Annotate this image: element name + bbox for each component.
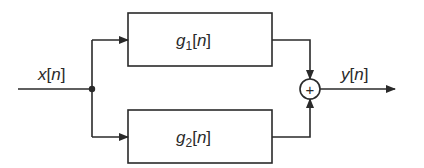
g1-output-line (272, 40, 310, 79)
g2-output-line (272, 99, 310, 137)
input-label: x[n] (37, 65, 65, 84)
parallel-system-diagram: x[n] g1[n] g2[n] + y[n] (0, 0, 424, 168)
block-g2-label: g2[n] (176, 128, 211, 150)
output-label: y[n] (340, 65, 368, 84)
block-g1-label: g1[n] (176, 31, 211, 53)
plus-icon: + (306, 81, 315, 98)
